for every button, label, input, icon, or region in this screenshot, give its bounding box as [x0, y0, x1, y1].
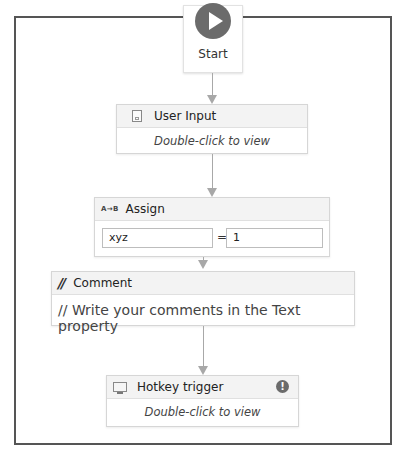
connector [212, 73, 213, 96]
activity-header: // Comment [52, 272, 354, 295]
activity-assign[interactable]: A→B Assign xyz = 1 [94, 197, 330, 257]
warning-icon[interactable]: ! [276, 380, 289, 393]
activity-user-input[interactable]: User Input Double-click to view [116, 104, 308, 154]
document-icon [132, 110, 142, 122]
assign-icon: A→B [101, 205, 119, 213]
arrow-icon [198, 366, 208, 375]
play-icon [195, 3, 231, 39]
assign-to-field[interactable]: xyz [102, 228, 213, 248]
activity-header: User Input [117, 105, 307, 128]
comment-icon: // [58, 275, 64, 291]
activity-header: A→B Assign [95, 198, 329, 221]
activity-hint: Double-click to view [117, 128, 307, 148]
connector [203, 326, 204, 367]
arrow-icon [207, 95, 217, 104]
monitor-icon [113, 382, 127, 392]
activity-header: Hotkey trigger ! [107, 376, 298, 399]
activity-title: Hotkey trigger [137, 380, 223, 394]
start-node[interactable]: Start [183, 5, 243, 73]
activity-title: Assign [126, 202, 165, 216]
activity-hint: Double-click to view [107, 399, 298, 419]
assign-value-field[interactable]: 1 [226, 228, 323, 248]
arrow-icon [207, 188, 217, 197]
activity-comment[interactable]: // Comment // Write your comments in the… [51, 271, 355, 326]
activity-hotkey-trigger[interactable]: Hotkey trigger ! Double-click to view [106, 375, 299, 427]
start-label: Start [184, 47, 242, 61]
arrow-icon [198, 260, 208, 269]
activity-title: Comment [73, 276, 132, 290]
activity-title: User Input [154, 109, 216, 123]
connector [212, 154, 213, 191]
